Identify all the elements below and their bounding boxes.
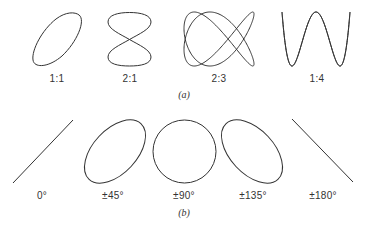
phase-90-circle xyxy=(153,120,216,183)
label-ratio-1-1: 1:1 xyxy=(50,73,65,84)
lissajous-2-3 xyxy=(184,12,254,66)
label-ratio-1-4: 1:4 xyxy=(310,73,325,84)
lissajous-1-4 xyxy=(282,12,350,66)
label-ratio-2-1: 2:1 xyxy=(123,73,138,84)
phase-0-line xyxy=(13,120,73,183)
label-phase-0: 0° xyxy=(37,190,47,201)
label-phase-135: ±135° xyxy=(239,190,267,201)
lissajous-1-1 xyxy=(33,13,82,66)
caption-b: (b) xyxy=(178,207,190,218)
lissajous-2-1 xyxy=(108,13,151,67)
caption-a: (a) xyxy=(178,89,190,100)
phase-180-line xyxy=(292,119,353,182)
label-phase-180: ±180° xyxy=(309,190,337,201)
label-phase-45: ±45° xyxy=(102,190,124,201)
label-phase-90: ±90° xyxy=(173,190,195,201)
phase-45-ellipse xyxy=(73,109,157,195)
phase-135-ellipse xyxy=(210,109,294,195)
label-ratio-2-3: 2:3 xyxy=(212,73,227,84)
